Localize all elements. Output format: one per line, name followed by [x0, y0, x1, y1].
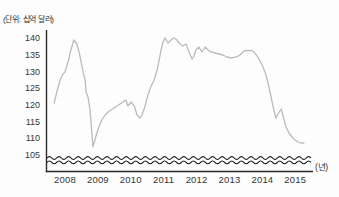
y-tick-label-105: 105 [16, 150, 40, 160]
line-chart: (단위: 십억 달러) 105110115120125130135140 200… [0, 0, 339, 197]
x-tick-label-2009: 2009 [84, 174, 112, 185]
x-tick-label-2015: 2015 [281, 174, 309, 185]
plot-area [0, 0, 339, 197]
x-tick-label-2011: 2011 [150, 174, 178, 185]
x-tick-label-2012: 2012 [183, 174, 211, 185]
y-tick-label-140: 140 [16, 33, 40, 43]
x-tick-label-2010: 2010 [117, 174, 145, 185]
y-tick-label-120: 120 [16, 100, 40, 110]
data-series [54, 38, 304, 147]
x-tick-label-2013: 2013 [216, 174, 244, 185]
x-tick-label-2014: 2014 [248, 174, 276, 185]
axes [46, 30, 313, 172]
x-tick-label-2008: 2008 [51, 174, 79, 185]
data-line-series-1 [54, 38, 304, 147]
y-tick-label-125: 125 [16, 83, 40, 93]
y-tick-label-135: 135 [16, 50, 40, 60]
y-axis-break [47, 157, 311, 164]
y-tick-label-110: 110 [16, 133, 40, 143]
axis-break-wave-2 [47, 161, 311, 164]
y-tick-label-130: 130 [16, 67, 40, 77]
axis-break-wave-1 [47, 157, 311, 160]
y-tick-label-115: 115 [16, 117, 40, 127]
x-axis-unit-label: (년) [315, 160, 328, 172]
